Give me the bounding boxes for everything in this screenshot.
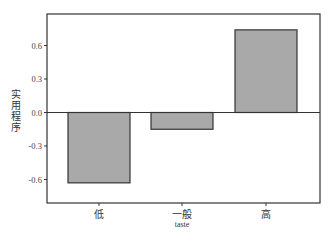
y-axis-label-char: 用	[11, 100, 21, 111]
y-tick-label: -0.3	[29, 141, 42, 151]
y-tick-label: 0.3	[31, 74, 42, 84]
y-tick-label: 0.6	[31, 41, 42, 51]
x-axis-label: taste	[175, 220, 190, 229]
y-axis-label-char: 实	[11, 88, 21, 100]
y-axis-label-char: 序	[11, 121, 21, 133]
x-tick-label: 高	[261, 208, 271, 220]
x-tick-label: 低	[94, 208, 104, 220]
bar-chart: -0.6-0.30.00.30.6低一般高taste实用程序	[0, 0, 332, 241]
bar-1	[151, 113, 213, 130]
y-tick-label: -0.6	[29, 175, 42, 185]
x-tick-label: 一般	[172, 208, 192, 220]
bar-0	[68, 113, 130, 183]
y-tick-label: 0.0	[31, 108, 42, 118]
y-axis-label-char: 程	[11, 111, 21, 122]
bar-2	[235, 30, 297, 113]
